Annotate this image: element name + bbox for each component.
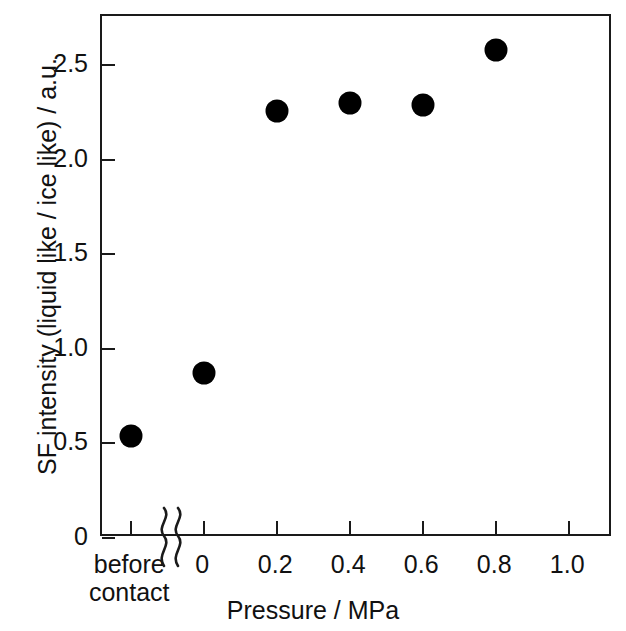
x-axis-tick <box>568 521 570 534</box>
x-axis-tick-label: 0.8 <box>477 550 512 578</box>
data-point <box>412 93 435 116</box>
y-axis-tick <box>102 442 115 444</box>
y-axis-tick <box>102 537 115 539</box>
scatter-plot-figure: 00.51.01.52.02.5 beforecontact00.20.40.6… <box>0 0 626 631</box>
x-axis-tick-label: 0.2 <box>258 550 293 578</box>
x-axis-tick <box>349 521 351 534</box>
plot-area <box>100 14 611 536</box>
x-axis-tick <box>422 521 424 534</box>
y-axis-tick <box>102 253 115 255</box>
x-axis-tick-label: 0.4 <box>331 550 366 578</box>
x-axis-title: Pressure / MPa <box>0 596 626 625</box>
x-axis-tick-label: 0 <box>195 550 209 578</box>
y-axis-tick <box>102 159 115 161</box>
x-axis-tick <box>203 521 205 534</box>
x-axis-tick-label: 1.0 <box>550 550 585 578</box>
data-point <box>339 92 362 115</box>
data-point <box>266 99 289 122</box>
data-point <box>120 424 143 447</box>
x-axis-tick <box>276 521 278 534</box>
x-axis-tick <box>130 521 132 534</box>
y-axis-tick <box>102 348 115 350</box>
y-axis-title: SF intensity (liquid like / ice like) / … <box>33 7 62 527</box>
x-axis-tick-label: 0.6 <box>404 550 439 578</box>
axis-break-icon <box>152 504 196 570</box>
data-point <box>485 39 508 62</box>
x-axis-tick <box>495 521 497 534</box>
data-point <box>193 362 216 385</box>
y-axis-tick <box>102 64 115 66</box>
